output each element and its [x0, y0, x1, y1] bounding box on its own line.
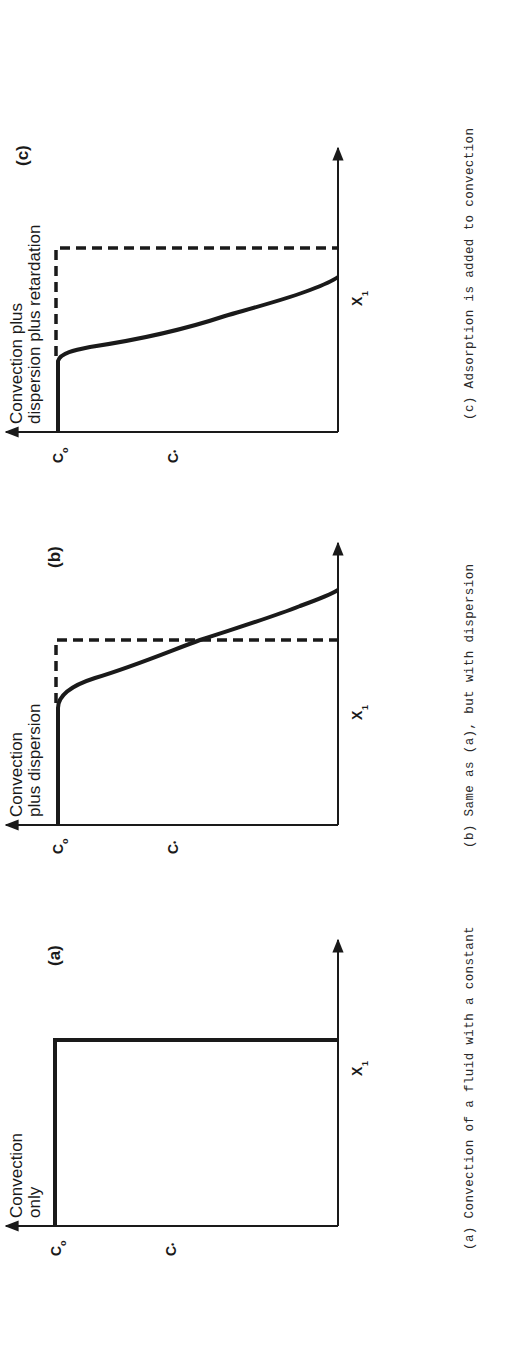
c0-label: C o — [50, 447, 70, 463]
panel-a-title-line-1: Convection — [7, 1133, 26, 1218]
svg-text:C: C — [163, 1246, 179, 1256]
caption-b: (b) Same as (a), but with dispersion add… — [418, 564, 519, 848]
panel-c-letter: (c) — [13, 145, 32, 166]
svg-text:o: o — [58, 1240, 68, 1246]
svg-text:1: 1 — [360, 291, 370, 296]
svg-text:X: X — [349, 1066, 365, 1076]
svg-text:•: • — [168, 1243, 178, 1246]
panel-a-title-line-2: only — [25, 1186, 44, 1218]
c0-label: C o — [50, 838, 70, 854]
svg-text:C: C — [48, 1246, 64, 1256]
panel-b-title-line-1: Convection — [7, 732, 26, 817]
panel-c-title-line-1: Convection plus — [7, 303, 26, 424]
panel-b-title-line-2: plus dispersion — [25, 704, 44, 817]
x1-label: X 1 — [349, 705, 370, 720]
c-mid-label: C • — [163, 1243, 179, 1256]
svg-text:o: o — [60, 838, 70, 844]
svg-text:X: X — [349, 710, 365, 720]
panel-b-letter: (b) — [45, 546, 64, 568]
svg-text:1: 1 — [360, 705, 370, 710]
panel-c: Convection plus dispersion plus retardat… — [6, 145, 370, 463]
svg-text:C: C — [165, 453, 181, 463]
x1-label: X 1 — [349, 1061, 370, 1076]
panel-c-title-line-2: dispersion plus retardation — [25, 225, 44, 424]
svg-text:•: • — [170, 450, 180, 453]
svg-text:C: C — [50, 453, 66, 463]
panel-a-letter: (a) — [45, 945, 64, 966]
caption-c-line-1: (c) Adsorption is added to convection — [460, 96, 481, 420]
reference-step-dashed — [56, 248, 338, 356]
panel-a: Convection only (a) C o C • X 1 — [6, 940, 370, 1256]
c-mid-label: C • — [165, 841, 181, 854]
c0-label: C o — [48, 1240, 68, 1256]
caption-b-line-1: (b) Same as (a), but with dispersion — [460, 564, 481, 848]
caption-c: (c) Adsorption is added to convection an… — [418, 96, 519, 420]
dispersed-front-curve — [58, 590, 338, 825]
retarded-front-curve — [58, 277, 338, 432]
caption-a-line-1: (a) Convection of a fluid with a constan… — [460, 910, 481, 1250]
svg-text:X: X — [349, 296, 365, 306]
step-front-curve — [55, 1040, 338, 1226]
reference-step-dashed — [56, 640, 338, 703]
svg-text:o: o — [60, 447, 70, 453]
svg-text:1: 1 — [360, 1061, 370, 1066]
panel-b: Convection plus dispersion (b) C o C • X… — [6, 543, 370, 854]
figure-stage: Convection only (a) C o C • X 1 — [0, 0, 519, 1346]
svg-text:C: C — [50, 844, 66, 854]
x1-label: X 1 — [349, 291, 370, 306]
svg-text:C: C — [165, 844, 181, 854]
c-mid-label: C • — [165, 450, 181, 463]
caption-a: (a) Convection of a fluid with a constan… — [418, 910, 519, 1250]
svg-text:•: • — [170, 841, 180, 844]
